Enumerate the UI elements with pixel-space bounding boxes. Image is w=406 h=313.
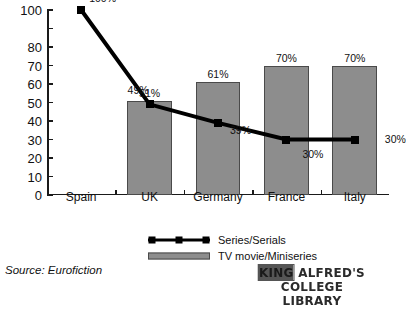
bar-swatch-key-icon bbox=[148, 250, 210, 261]
line-marker bbox=[282, 136, 290, 144]
line-marker bbox=[146, 100, 154, 108]
y-axis-tick-label: 0 bbox=[35, 189, 42, 202]
legend-item-series-serials: Series/Serials bbox=[148, 233, 317, 246]
y-axis-tick-label: 40 bbox=[28, 115, 42, 128]
line-marker bbox=[77, 6, 85, 14]
line-marker bbox=[351, 136, 359, 144]
y-axis-tick-label: 70 bbox=[28, 59, 42, 72]
library-stamp-line-2: LIBRARY bbox=[229, 294, 395, 308]
chart-legend: Series/Serials TV movie/Miniseries bbox=[148, 233, 317, 265]
library-stamp-line-1: KING ALFRED'S COLLEGE bbox=[229, 266, 395, 294]
legend-label-tv-movie-miniseries: TV movie/Miniseries bbox=[218, 250, 317, 262]
x-axis-category-label: France bbox=[268, 190, 305, 204]
x-axis-category-label: Germany bbox=[193, 190, 242, 204]
source-note: Source: Eurofiction bbox=[5, 264, 102, 276]
line-series-path bbox=[47, 10, 389, 195]
bar-value-label: 70% bbox=[344, 52, 365, 64]
chart-figure: 10080706050403020100 100%49%39%30%30% 51… bbox=[0, 0, 406, 313]
line-marker bbox=[214, 119, 222, 127]
library-stamp: KING ALFRED'S COLLEGE LIBRARY bbox=[222, 266, 402, 308]
bar-value-label: 61% bbox=[207, 68, 228, 80]
line-point-label: 39% bbox=[230, 124, 251, 136]
legend-item-tv-movie-miniseries: TV movie/Miniseries bbox=[148, 249, 317, 262]
line-point-label: 100% bbox=[89, 0, 116, 4]
y-axis-tick-label: 80 bbox=[28, 41, 42, 54]
y-axis-tick-label: 30 bbox=[28, 133, 42, 146]
y-axis-tick-label: 50 bbox=[28, 96, 42, 109]
plot-area: 10080706050403020100 100%49%39%30%30% 51… bbox=[47, 10, 389, 195]
bar-value-label: 70% bbox=[276, 52, 297, 64]
line-point-label: 30% bbox=[385, 133, 406, 145]
y-axis-tick-label: 10 bbox=[28, 170, 42, 183]
x-axis-category-label: Spain bbox=[66, 190, 97, 204]
y-axis-tick-label: 100 bbox=[20, 4, 42, 17]
y-axis-tick-label: 60 bbox=[28, 78, 42, 91]
x-axis-category-label: UK bbox=[141, 190, 158, 204]
bar-value-label: 51% bbox=[139, 87, 160, 99]
line-point-label: 30% bbox=[302, 148, 323, 160]
library-stamp-smudged-word: KING bbox=[259, 265, 294, 280]
y-axis-tick-label: 20 bbox=[28, 152, 42, 165]
line-marker-key-icon bbox=[148, 234, 210, 245]
legend-label-series-serials: Series/Serials bbox=[218, 234, 286, 246]
x-axis-category-label: Italy bbox=[344, 190, 366, 204]
